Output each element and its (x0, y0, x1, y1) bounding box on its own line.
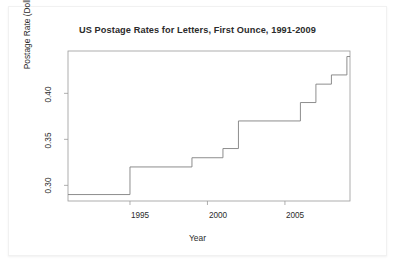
x-axis-ticks (130, 201, 285, 205)
plot-background (68, 51, 350, 201)
y-axis-ticks (64, 93, 68, 185)
plot-area (0, 0, 395, 267)
chart-figure: US Postage Rates for Letters, First Ounc… (0, 0, 395, 267)
